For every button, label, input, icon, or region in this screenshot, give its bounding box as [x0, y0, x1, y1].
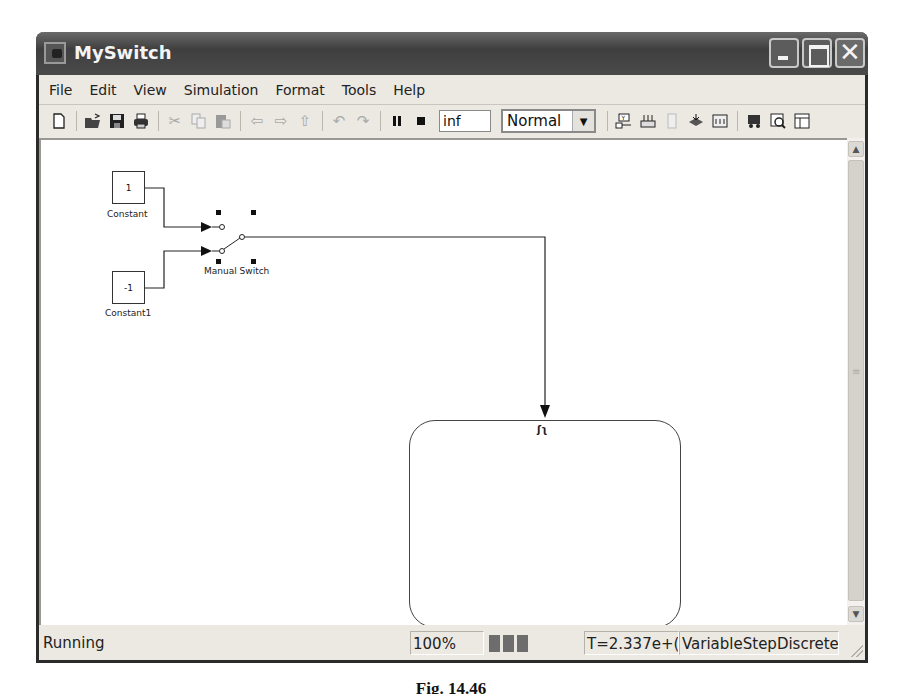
stop-time-input[interactable]: inf [439, 110, 491, 132]
constant-label[interactable]: Constant [107, 209, 147, 219]
copy-icon[interactable] [189, 111, 209, 131]
debug-icon[interactable] [662, 111, 682, 131]
constant1-value: -1 [124, 283, 133, 293]
svg-text:Y: Y [621, 114, 626, 121]
simulation-status: Running [41, 631, 401, 655]
paste-icon[interactable] [213, 111, 233, 131]
trigger-port-icon: ʃʅ [537, 424, 547, 435]
open-folder-icon[interactable] [83, 111, 103, 131]
toolbar-separator [240, 111, 241, 131]
print-icon[interactable] [131, 111, 151, 131]
menu-bar: File Edit View Simulation Format Tools H… [39, 75, 865, 105]
status-bar: Running 100% T=2.337e+( VariableStepDisc… [39, 627, 865, 660]
model-canvas[interactable]: 1 Constant -1 Constant1 Manual Switch ʃʅ… [39, 138, 847, 625]
menu-file[interactable]: File [49, 82, 72, 98]
constant1-label[interactable]: Constant1 [105, 308, 151, 318]
simulink-app-icon[interactable] [44, 42, 66, 64]
cut-icon[interactable]: ✂ [165, 111, 185, 131]
toolbar-separator [76, 111, 77, 131]
menu-tools[interactable]: Tools [342, 82, 377, 98]
simulation-mode-value: Normal [507, 112, 561, 130]
controller-chart-block[interactable] [409, 420, 681, 625]
progress-block [489, 635, 500, 652]
toolbar-separator [158, 111, 159, 131]
toolbar-separator [607, 111, 608, 131]
selection-handle[interactable] [251, 259, 256, 264]
menu-view[interactable]: View [134, 82, 167, 98]
minimize-button[interactable] [769, 38, 799, 68]
window-title: MySwitch [74, 42, 172, 63]
save-icon[interactable] [107, 111, 127, 131]
scroll-thumb[interactable] [848, 160, 864, 601]
selection-handle[interactable] [216, 259, 221, 264]
model-explorer-icon[interactable] [710, 111, 730, 131]
update-diagram-icon[interactable] [638, 111, 658, 131]
toolbar-separator [737, 111, 738, 131]
close-button[interactable]: ✕ [835, 38, 865, 68]
simulation-time: T=2.337e+( [584, 631, 679, 655]
selection-handle[interactable] [251, 210, 256, 215]
up-arrow-icon[interactable]: ⇧ [295, 111, 315, 131]
simulation-mode-select[interactable]: Normal ▼ [501, 109, 596, 133]
constant-block[interactable]: 1 [112, 171, 145, 204]
constant1-block[interactable]: -1 [112, 271, 145, 304]
close-icon: ✕ [837, 37, 863, 67]
resize-grip[interactable] [849, 643, 863, 657]
toolbar-separator [380, 111, 381, 131]
new-file-icon[interactable] [49, 111, 69, 131]
progress-indicator [485, 631, 582, 655]
chevron-down-icon[interactable]: ▼ [572, 111, 594, 131]
menu-edit[interactable]: Edit [89, 82, 116, 98]
stop-icon[interactable] [411, 111, 431, 131]
zoom-view-icon[interactable] [768, 111, 788, 131]
scroll-up-button[interactable]: ▲ [848, 141, 864, 157]
progress-block [503, 635, 514, 652]
toolbar: ✂ ⇦ ⇨ ⇧ ↶ ↷ inf Normal ▼ Y [39, 106, 865, 136]
target-icon[interactable] [744, 111, 764, 131]
properties-icon[interactable] [792, 111, 812, 131]
build-icon[interactable]: Y [614, 111, 634, 131]
selection-handle[interactable] [216, 210, 221, 215]
toolbar-separator [322, 111, 323, 131]
manual-switch-label[interactable]: Manual Switch [204, 266, 269, 276]
pause-icon[interactable] [387, 111, 407, 131]
simulink-model-window: MySwitch ✕ File Edit View Simulation For… [36, 32, 868, 663]
undo-icon[interactable]: ↶ [329, 111, 349, 131]
back-arrow-icon[interactable]: ⇦ [247, 111, 267, 131]
forward-arrow-icon[interactable]: ⇨ [271, 111, 291, 131]
menu-help[interactable]: Help [393, 82, 425, 98]
scroll-down-button[interactable]: ▼ [848, 606, 864, 622]
menu-format[interactable]: Format [275, 82, 324, 98]
menu-simulation[interactable]: Simulation [184, 82, 259, 98]
zoom-level: 100% [410, 631, 484, 655]
progress-block [517, 635, 528, 652]
redo-icon[interactable]: ↷ [353, 111, 373, 131]
constant-value: 1 [126, 183, 132, 193]
library-browser-icon[interactable] [686, 111, 706, 131]
solver-name: VariableStepDiscrete [679, 631, 839, 655]
figure-caption: Fig. 14.46 [0, 679, 902, 694]
manual-switch-block[interactable] [201, 218, 253, 258]
title-bar[interactable]: MySwitch ✕ [36, 32, 868, 75]
vertical-scrollbar[interactable]: ▲ ▼ [847, 138, 865, 625]
maximize-button[interactable] [802, 38, 832, 68]
